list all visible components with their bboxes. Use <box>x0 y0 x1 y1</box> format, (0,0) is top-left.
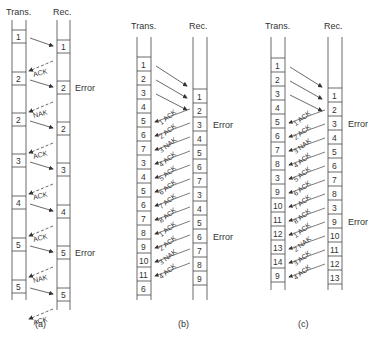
trans-frame: 13 <box>271 240 285 253</box>
rec-frame: 5 <box>57 288 70 301</box>
rec-frame-number: 3 <box>332 119 337 129</box>
response-label: ACK <box>32 191 48 201</box>
rec-frame: 7 <box>328 172 342 185</box>
rec-frame-number: 10 <box>330 231 340 241</box>
error-label: Error <box>213 120 233 130</box>
frame-arrow <box>30 204 53 211</box>
rec-frame: 3Error <box>193 117 233 130</box>
rec-frame: 4 <box>328 130 342 143</box>
rec-frame-number: 1 <box>61 42 66 52</box>
trans-frame-number: 3 <box>275 89 280 99</box>
frame-arrow <box>290 95 322 111</box>
trans-frame: 10 <box>271 198 285 211</box>
rec-frame-number: 2 <box>197 106 202 116</box>
trans-frame-number: 14 <box>273 257 283 267</box>
trans-frame: 2 <box>12 113 26 126</box>
frame-arrow <box>30 121 53 128</box>
trans-frame-number: 5 <box>141 116 146 126</box>
rec-frame-number: 4 <box>332 133 337 143</box>
frame-arrow <box>30 162 53 169</box>
rec-frame-number: 6 <box>197 162 202 172</box>
trans-frame-number: 3 <box>16 156 21 166</box>
trans-frame: 12 <box>271 226 285 239</box>
rec-frame: 13 <box>328 270 342 283</box>
trans-frame: 3 <box>12 154 26 167</box>
trans-frame-number: 4 <box>16 198 21 208</box>
trans-frame-number: 7 <box>141 214 146 224</box>
trans-frame: 8 <box>137 225 151 238</box>
rec-frame-number: 3 <box>197 190 202 200</box>
trans-frame-number: 5 <box>16 282 21 292</box>
trans-frame-number: 3 <box>141 158 146 168</box>
rec-frame: 2 <box>57 122 70 135</box>
arq-diagram: Trans.Rec.(a)122345512Error2345Error5ACK… <box>0 0 372 337</box>
rec-frame-number: 1 <box>197 92 202 102</box>
trans-frame: 9 <box>271 184 285 197</box>
trans-frame: 5 <box>137 183 151 196</box>
rec-frame: 1 <box>57 40 70 53</box>
trans-frame-number: 6 <box>141 130 146 140</box>
rec-frame-number: 13 <box>330 273 340 283</box>
trans-frame-number: 1 <box>275 61 280 71</box>
trans-frame-number: 4 <box>141 172 146 182</box>
trans-frame: 5 <box>12 238 26 251</box>
trans-frame-number: 1 <box>141 60 146 70</box>
rec-frame-number: 9 <box>332 217 337 227</box>
trans-frame: 9 <box>271 268 285 281</box>
trans-frame: 5 <box>137 113 151 126</box>
trans-frame: 9 <box>137 239 151 252</box>
trans-frame: 2 <box>137 71 151 84</box>
trans-frame: 4 <box>271 100 285 113</box>
trans-frame: 2 <box>271 72 285 85</box>
panel-caption: (c) <box>298 319 309 329</box>
rec-frame-number: 2 <box>61 83 66 93</box>
response-label: 1 ACK <box>157 108 177 126</box>
frame-arrow <box>30 246 53 252</box>
trans-frame: 2 <box>12 72 26 85</box>
rec-frame-number: 1 <box>332 91 337 101</box>
trans-frame-number: 2 <box>16 74 21 84</box>
response-label: ACK <box>32 233 48 243</box>
rec-frame: 6 <box>193 159 207 172</box>
rec-frame-number: 9 <box>197 274 202 284</box>
rec-frame: 4 <box>57 205 70 218</box>
rec-frame-number: 3 <box>332 203 337 213</box>
rec-frame: 3 <box>57 163 70 176</box>
trans-frame-number: 4 <box>141 102 146 112</box>
trans-frame-number: 2 <box>16 115 21 125</box>
trans-frame-number: 5 <box>141 186 146 196</box>
error-label: Error <box>75 248 95 258</box>
trans-frame: 3 <box>137 155 151 168</box>
rec-frame-number: 4 <box>197 204 202 214</box>
trans-frame-number: 6 <box>141 284 146 294</box>
rec-frame: 3Error <box>328 116 368 129</box>
rec-frame-number: 5 <box>332 147 337 157</box>
rec-frame-number: 5 <box>197 218 202 228</box>
rec-frame: 7 <box>193 243 207 256</box>
trans-frame: 4 <box>137 99 151 112</box>
frame-arrow <box>30 288 53 294</box>
rec-frame-number: 3 <box>61 165 66 175</box>
rec-frame: 12 <box>328 256 342 269</box>
trans-frame-number: 5 <box>16 240 21 250</box>
trans-frame-number: 9 <box>275 187 280 197</box>
trans-frame-number: 10 <box>273 201 283 211</box>
frame-arrow <box>156 94 187 110</box>
trans-frame-number: 8 <box>141 228 146 238</box>
response-label: ACK <box>32 68 48 78</box>
rec-frame-number: 5 <box>197 148 202 158</box>
response-label: NAK <box>32 274 48 284</box>
trans-frame-number: 3 <box>275 173 280 183</box>
trans-frame-number: 11 <box>139 270 148 280</box>
rec-frame: 5Error <box>57 246 95 259</box>
rec-frame: 8 <box>328 186 342 199</box>
rec-frame-number: 3 <box>197 120 202 130</box>
rec-frame: 3 <box>328 200 342 213</box>
trans-frame-number: 5 <box>275 117 280 127</box>
rec-frame: 9Error <box>328 214 368 227</box>
trans-frame: 4 <box>137 169 151 182</box>
trans-frame: 5 <box>12 280 26 293</box>
trans-frame-number: 11 <box>273 215 282 225</box>
frame-arrow <box>30 80 53 87</box>
rec-frame: 4 <box>193 201 207 214</box>
